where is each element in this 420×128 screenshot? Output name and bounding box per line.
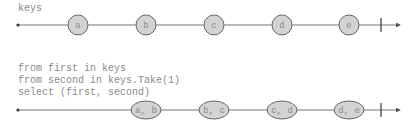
marble: c, d — [267, 101, 297, 119]
marble-label: e — [346, 21, 351, 31]
marble-label: d — [279, 21, 284, 31]
marble: e — [339, 15, 359, 35]
marble: d — [272, 15, 292, 35]
marble-label: a — [75, 21, 81, 31]
top-timeline: a b c d e — [16, 15, 400, 35]
marble: a — [68, 15, 88, 35]
marble-label: c — [211, 21, 216, 31]
marble-label: c, d — [271, 106, 293, 116]
marble: b — [136, 15, 156, 35]
marble: a, b — [131, 101, 161, 119]
marble-diagram: a b c d e a, b b, c — [0, 0, 420, 128]
bottom-timeline: a, b b, c c, d d, e — [16, 101, 400, 119]
marble-label: b, c — [203, 106, 225, 116]
marble: d, e — [334, 101, 364, 119]
marble: c — [204, 15, 224, 35]
marble-label: b — [143, 21, 148, 31]
marble-label: d, e — [338, 106, 360, 116]
marble-label: a, b — [135, 106, 157, 116]
marble: b, c — [199, 101, 229, 119]
